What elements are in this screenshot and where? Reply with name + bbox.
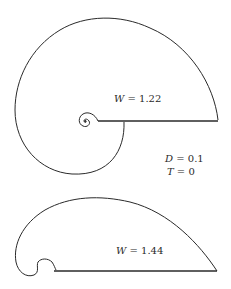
param-t-label: T = 0 <box>167 167 195 177</box>
param-d-label: D = 0.1 <box>165 154 204 164</box>
param-d-value: = 0.1 <box>173 153 204 164</box>
top-w-label: W = 1.22 <box>114 94 161 104</box>
bottom-outer-curve <box>15 198 217 276</box>
spiral-center-dot <box>84 120 86 122</box>
param-t-value: = 0 <box>174 166 195 177</box>
top-w-value: = 1.22 <box>124 93 161 104</box>
bottom-w-label: W = 1.44 <box>116 246 163 256</box>
param-t-var: T <box>167 166 174 177</box>
bottom-w-value: = 1.44 <box>126 245 163 256</box>
param-d-var: D <box>165 153 173 164</box>
top-w-var: W <box>114 93 124 104</box>
bottom-w-var: W <box>116 245 126 256</box>
top-inner-spiral <box>79 113 98 127</box>
